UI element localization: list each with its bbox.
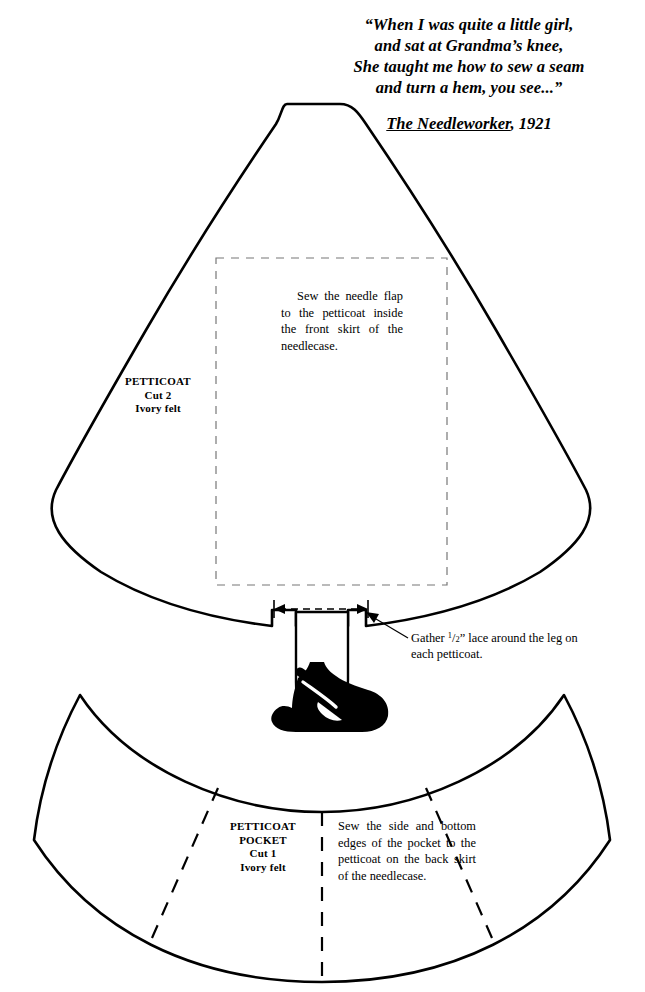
attribution-title: The Needleworker [386, 114, 510, 133]
lace-callout-fraction: 1/2 [448, 631, 460, 645]
gather-lace-callout: Gather 1/2” lace around the leg on each … [411, 628, 579, 663]
pocket-label-cut: Cut 1 [198, 847, 328, 861]
petticoat-outline [52, 104, 591, 626]
quote-line-3: She taught me how to sew a seam [300, 56, 638, 77]
petticoat-label-name: PETTICOAT [88, 375, 228, 389]
quote-line-4: and turn a hem, you see...” [300, 77, 638, 98]
pocket-label-material: Ivory felt [198, 861, 328, 875]
pocket-label-name2: POCKET [198, 834, 328, 848]
pocket-piece-label: PETTICOAT POCKET Cut 1 Ivory felt [198, 820, 328, 874]
quote-attribution: The Needleworker, 1921 [300, 113, 638, 134]
petticoat-label-material: Ivory felt [88, 402, 228, 416]
needle-flap-instruction: Sew the needle flap to the petticoat ins… [281, 288, 403, 354]
pocket-instruction: Sew the side and bottom edges of the poc… [338, 818, 476, 884]
lace-callout-prefix: Gather [411, 631, 448, 645]
attribution-year: , 1921 [510, 114, 551, 133]
mary-jane-shoe [271, 662, 388, 732]
pocket-label-name: PETTICOAT [198, 820, 328, 834]
epigraph-quote: “When I was quite a little girl, and sat… [300, 14, 638, 98]
quote-line-2: and sat at Grandma’s knee, [300, 35, 638, 56]
pattern-sheet: “When I was quite a little girl, and sat… [0, 0, 645, 992]
petticoat-piece-label: PETTICOAT Cut 2 Ivory felt [88, 375, 228, 416]
quote-line-1: “When I was quite a little girl, [300, 14, 638, 35]
fraction-numerator: 1 [448, 630, 452, 640]
petticoat-label-cut: Cut 2 [88, 389, 228, 403]
